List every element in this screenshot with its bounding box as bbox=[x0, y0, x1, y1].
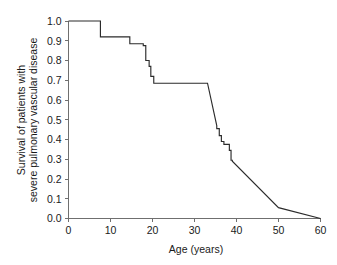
y-tick-label: 0.4 bbox=[47, 133, 62, 145]
x-tick-label: 20 bbox=[147, 224, 159, 236]
y-axis-title-line-1: Survival of patients with bbox=[15, 65, 27, 175]
y-tick-label: 0.8 bbox=[47, 54, 62, 66]
y-tick-label: 0.2 bbox=[47, 173, 62, 185]
x-tick-label: 40 bbox=[231, 224, 243, 236]
y-tick-label: 0.7 bbox=[47, 74, 62, 86]
x-tick-label: 50 bbox=[273, 224, 285, 236]
y-axis-tick-labels: 0.00.10.20.30.40.50.60.70.80.91.0 bbox=[47, 15, 62, 225]
y-tick-label: 0.9 bbox=[47, 35, 62, 47]
x-tick-label: 10 bbox=[105, 224, 117, 236]
x-tick-label: 60 bbox=[315, 224, 327, 236]
y-tick-label: 0.3 bbox=[47, 153, 62, 165]
y-axis-title: Survival of patients with severe pulmona… bbox=[15, 38, 39, 203]
plot-axes bbox=[69, 21, 321, 219]
x-axis-title: Age (years) bbox=[169, 243, 223, 255]
y-axis-title-line-2: severe pulmonary vascular disease bbox=[27, 38, 39, 203]
y-tick-label: 0.6 bbox=[47, 94, 62, 106]
y-axis-ticks bbox=[65, 21, 69, 219]
x-axis-ticks bbox=[69, 219, 321, 223]
x-tick-label: 30 bbox=[189, 224, 201, 236]
survival-curve-figure: 0.00.10.20.30.40.50.60.70.80.91.0 010203… bbox=[0, 0, 337, 265]
survival-curve-line bbox=[69, 21, 321, 219]
x-tick-label: 0 bbox=[66, 224, 72, 236]
chart-canvas: 0.00.10.20.30.40.50.60.70.80.91.0 010203… bbox=[0, 0, 337, 265]
x-axis-tick-labels: 0102030405060 bbox=[66, 224, 327, 236]
y-tick-label: 0.5 bbox=[47, 114, 62, 126]
y-tick-label: 1.0 bbox=[47, 15, 62, 27]
y-tick-label: 0.0 bbox=[47, 212, 62, 224]
y-tick-label: 0.1 bbox=[47, 193, 62, 205]
